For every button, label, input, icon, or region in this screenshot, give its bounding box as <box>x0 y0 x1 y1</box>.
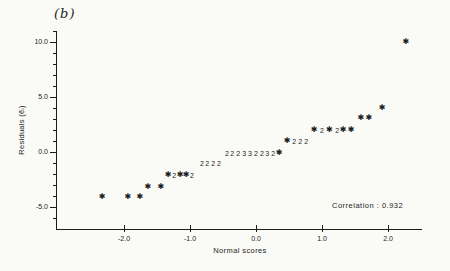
qq-plot-figure: (b) Residuals (ẽᵢ) 10.05.00.0-5.0-2.0-1.… <box>0 0 450 271</box>
y-tick-label: 5.0 <box>26 93 48 101</box>
data-point-star: ✱ <box>340 126 347 134</box>
y-tick-major <box>50 207 57 208</box>
data-point-count: 2 <box>200 160 204 167</box>
y-tick-minor <box>53 75 57 76</box>
data-point-star: ✱ <box>99 193 106 201</box>
y-tick-label: 0.0 <box>26 148 48 156</box>
data-point-count: 2 <box>335 127 339 134</box>
y-tick-minor <box>53 86 57 87</box>
y-tick-major <box>50 42 57 43</box>
data-point-star: ✱ <box>402 38 409 46</box>
y-tick-minor <box>53 196 57 197</box>
y-tick-minor <box>53 174 57 175</box>
y-tick-minor <box>53 53 57 54</box>
y-tick-minor <box>53 130 57 131</box>
x-axis-label: Normal scores <box>213 246 267 255</box>
data-point-count: 2 <box>225 150 229 157</box>
data-point-count: 2 <box>211 160 215 167</box>
data-point-star: ✱ <box>276 149 283 157</box>
data-point-star: ✱ <box>125 193 132 201</box>
x-tick-label: -2.0 <box>111 235 137 243</box>
x-tick-label: 1.0 <box>309 235 335 243</box>
data-point-star: ✱ <box>379 104 386 112</box>
x-tick <box>190 225 191 232</box>
data-point-star: ✱ <box>183 171 190 179</box>
data-point-count: 2 <box>205 160 209 167</box>
data-point-star: ✱ <box>136 193 143 201</box>
data-point-count: 2 <box>230 150 234 157</box>
data-point-count: 3 <box>265 150 269 157</box>
data-point-count: 3 <box>242 150 246 157</box>
data-point-star: ✱ <box>284 137 291 145</box>
y-tick-major <box>50 97 57 98</box>
y-tick-minor <box>53 108 57 109</box>
data-point-count: 2 <box>254 150 258 157</box>
data-point-star: ✱ <box>311 126 318 134</box>
data-point-star: ✱ <box>348 126 355 134</box>
x-tick-label: 0.0 <box>243 235 269 243</box>
y-tick-minor <box>53 141 57 142</box>
x-tick <box>388 225 389 232</box>
data-point-count: 2 <box>172 172 176 179</box>
y-tick-label: 10.0 <box>26 38 48 46</box>
data-point-star: ✱ <box>165 171 172 179</box>
x-tick <box>322 225 323 232</box>
data-point-count: 3 <box>248 150 252 157</box>
y-tick-minor <box>53 119 57 120</box>
data-point-star: ✱ <box>358 114 365 122</box>
data-point-star: ✱ <box>366 114 373 122</box>
x-tick <box>124 225 125 232</box>
y-tick-minor <box>53 163 57 164</box>
data-point-count: 2 <box>217 160 221 167</box>
data-point-count: 2 <box>260 150 264 157</box>
y-tick-minor <box>53 64 57 65</box>
x-tick-label: 2.0 <box>375 235 401 243</box>
x-tick-label: -1.0 <box>177 235 203 243</box>
plot-area: 10.05.00.0-5.0-2.0-1.00.01.02.0✱✱✱✱✱✱2✱✱… <box>0 0 450 271</box>
data-point-count: 2 <box>292 138 296 145</box>
data-point-count: 2 <box>190 172 194 179</box>
data-point-star: ✱ <box>326 126 333 134</box>
data-point-count: 2 <box>271 150 275 157</box>
data-point-star: ✱ <box>158 183 165 191</box>
data-point-count: 2 <box>304 138 308 145</box>
x-axis-line <box>56 229 422 230</box>
x-tick <box>256 225 257 232</box>
y-tick-minor <box>53 185 57 186</box>
data-point-count: 2 <box>236 150 240 157</box>
y-tick-minor <box>53 31 57 32</box>
y-tick-major <box>50 152 57 153</box>
correlation-annotation: Correlation : 0.932 <box>332 201 403 210</box>
y-tick-minor <box>53 218 57 219</box>
data-point-count: 2 <box>320 127 324 134</box>
data-point-star: ✱ <box>144 183 151 191</box>
y-tick-label: -5.0 <box>26 203 48 211</box>
data-point-count: 2 <box>298 138 302 145</box>
